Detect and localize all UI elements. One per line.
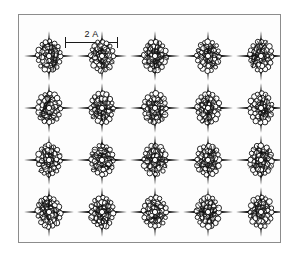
- molecule-cluster: [234, 81, 281, 135]
- molecule-cluster: [22, 185, 76, 239]
- molecule-cluster: [181, 29, 235, 83]
- molecule-cluster: [75, 185, 129, 239]
- molecule-cluster: [128, 81, 182, 135]
- molecule-cluster: [181, 133, 235, 187]
- molecule-cluster: [181, 81, 235, 135]
- molecule-cluster: [128, 29, 182, 83]
- molecule-cluster: [75, 133, 129, 187]
- molecule-cluster: [234, 133, 281, 187]
- molecule-cluster: [22, 29, 76, 83]
- molecule-cluster: [128, 133, 182, 187]
- molecule-cluster: [75, 81, 129, 135]
- figure-panel: 2 A: [18, 14, 281, 243]
- molecule-cluster: [234, 185, 281, 239]
- molecule-cluster: [22, 133, 76, 187]
- molecular-packing-figure: 2 A: [0, 0, 297, 258]
- molecule-cluster: [22, 81, 76, 135]
- molecule-cluster: [234, 29, 281, 83]
- molecule-cluster: [128, 185, 182, 239]
- lattice-grid: [19, 15, 281, 243]
- molecule-cluster: [181, 185, 235, 239]
- molecule-cluster: [75, 29, 129, 83]
